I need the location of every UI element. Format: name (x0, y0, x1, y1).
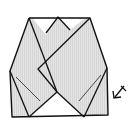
folded-model (10, 17, 108, 117)
diagram-svg (0, 0, 129, 131)
origami-diagram (0, 0, 129, 131)
turn-over-arrow-icon (113, 86, 126, 98)
